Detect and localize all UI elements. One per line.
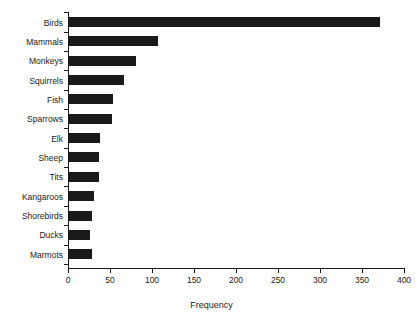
- category-label: Ducks: [39, 230, 63, 240]
- bar: [68, 56, 136, 66]
- bar: [68, 230, 90, 240]
- x-tick: [152, 269, 153, 273]
- y-tick: [64, 186, 68, 187]
- y-tick: [64, 12, 68, 13]
- bar: [68, 133, 100, 143]
- x-tick: [68, 269, 69, 273]
- x-tick: [194, 269, 195, 273]
- y-tick: [64, 264, 68, 265]
- category-label: Shorebirds: [22, 211, 63, 221]
- bar: [68, 152, 99, 162]
- x-axis-title-text: Frequency: [190, 300, 233, 310]
- category-label: Squirrels: [29, 76, 63, 86]
- x-tick-label: 150: [179, 275, 209, 285]
- y-tick: [64, 109, 68, 110]
- bar: [68, 249, 92, 259]
- x-tick-label: 250: [263, 275, 293, 285]
- bar: [68, 36, 158, 46]
- y-tick: [64, 148, 68, 149]
- category-label: Tits: [50, 172, 63, 182]
- bar: [68, 94, 113, 104]
- x-tick-label: 200: [221, 275, 251, 285]
- bar: [68, 191, 94, 201]
- x-axis-title: Frequency: [0, 300, 419, 310]
- x-tick: [320, 269, 321, 273]
- y-tick: [64, 128, 68, 129]
- bar: [68, 172, 99, 182]
- category-label: Monkeys: [29, 56, 63, 66]
- category-label: Sheep: [38, 153, 63, 163]
- bar: [68, 211, 92, 221]
- x-tick-label: 400: [389, 275, 419, 285]
- x-tick-label: 50: [95, 275, 125, 285]
- y-tick: [64, 167, 68, 168]
- bar: [68, 75, 124, 85]
- y-tick: [64, 90, 68, 91]
- category-label: Kangaroos: [22, 192, 63, 202]
- x-tick: [110, 269, 111, 273]
- x-tick-label: 300: [305, 275, 335, 285]
- x-tick: [404, 269, 405, 273]
- y-tick: [64, 32, 68, 33]
- y-tick: [64, 245, 68, 246]
- category-label: Elk: [51, 134, 63, 144]
- y-tick: [64, 225, 68, 226]
- y-tick: [64, 51, 68, 52]
- x-tick-label: 350: [347, 275, 377, 285]
- x-tick: [362, 269, 363, 273]
- category-label: Birds: [44, 18, 63, 28]
- y-tick: [64, 206, 68, 207]
- bar: [68, 17, 380, 27]
- category-label: Marmots: [30, 250, 63, 260]
- x-tick: [236, 269, 237, 273]
- category-label: Sparrows: [27, 114, 63, 124]
- y-tick: [64, 70, 68, 71]
- x-tick-label: 0: [53, 275, 83, 285]
- x-tick-label: 100: [137, 275, 167, 285]
- category-label: Mammals: [26, 37, 63, 47]
- category-label: Fish: [47, 95, 63, 105]
- x-tick: [278, 269, 279, 273]
- bar: [68, 114, 112, 124]
- bar-chart: BirdsMammalsMonkeysSquirrelsFishSparrows…: [0, 0, 419, 323]
